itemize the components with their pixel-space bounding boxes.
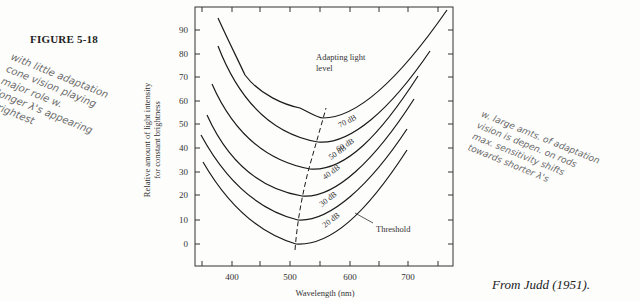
x-tick-label: 600 xyxy=(343,272,357,282)
y-tick-label: 10 xyxy=(179,215,189,225)
y-axis-title-line: for constant brightness xyxy=(152,101,162,178)
y-tick-label: 80 xyxy=(179,49,189,59)
y-tick-label: 90 xyxy=(179,25,189,35)
curve-label-30db: 30 dB xyxy=(318,190,339,209)
y-tick-label: 0 xyxy=(184,239,189,249)
y-axis-title-line: Relative amount of light intensity xyxy=(142,82,152,197)
threshold-pointer xyxy=(355,213,373,223)
y-tick-label: 30 xyxy=(179,167,189,177)
y-tick-label: 50 xyxy=(179,119,189,129)
x-tick-labels: 400 500 600 700 xyxy=(225,272,415,282)
x-axis-title: Wavelength (nm) xyxy=(295,288,354,298)
y-tick-label: 60 xyxy=(179,96,189,106)
curve-label-40db: 40 dB xyxy=(321,163,342,182)
y-tick-label: 70 xyxy=(179,72,189,82)
dashed-minima-locus xyxy=(295,108,326,250)
y-tick-labels: 90 80 70 60 50 40 30 20 10 0 xyxy=(179,25,189,249)
threshold-label: Threshold xyxy=(376,224,411,234)
x-tick-label: 700 xyxy=(401,272,415,282)
y-tick-label: 20 xyxy=(179,190,189,200)
curve-50db xyxy=(212,76,418,169)
curve-labels: 70 dB 60 dB 50 dB 40 dB 30 dB 20 dB xyxy=(318,113,358,230)
curve-label-20db: 20 dB xyxy=(321,211,342,230)
x-tick-label: 500 xyxy=(283,272,297,282)
curve-30db xyxy=(201,129,407,220)
legend-title-line1: Adapting light xyxy=(316,52,366,62)
legend-title-line2: level xyxy=(316,63,333,73)
chart: 90 80 70 60 50 40 30 20 10 0 400 500 600… xyxy=(0,0,640,301)
y-axis-title: Relative amount of light intensity for c… xyxy=(142,82,162,197)
x-tick-label: 400 xyxy=(225,272,239,282)
source-credit: From Judd (1951). xyxy=(492,277,590,293)
y-tick-label: 40 xyxy=(179,143,189,153)
curves xyxy=(201,10,447,244)
